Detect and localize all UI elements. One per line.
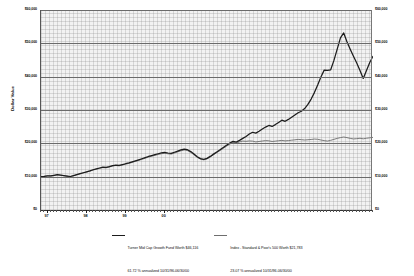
x-axis-tick-label: 97 — [40, 214, 54, 218]
x-axis-tick — [73, 210, 74, 212]
x-axis-tick — [60, 210, 61, 212]
y-axis-tick-label-left: $10,000 — [0, 175, 37, 179]
legend-fund-line1: Turner Mid Cap Growth Fund Worth $46,116 — [128, 246, 199, 250]
x-axis-tick — [349, 210, 350, 212]
x-axis-tick — [196, 210, 197, 212]
x-axis-tick — [147, 210, 148, 212]
x-axis-tick — [102, 210, 103, 212]
x-axis-tick-label: 99 — [118, 214, 132, 218]
gridline — [41, 10, 372, 11]
gridline — [41, 110, 372, 111]
x-axis-tick — [199, 210, 200, 212]
x-axis-tick — [333, 210, 334, 212]
x-axis-tick — [154, 210, 155, 212]
x-axis-tick — [245, 210, 246, 212]
right-axis-line — [371, 10, 372, 211]
x-axis-tick — [274, 210, 275, 212]
x-axis-tick — [258, 210, 259, 212]
x-axis-tick — [310, 210, 311, 212]
x-axis-tick — [82, 210, 83, 212]
legend-entry-fund: Turner Mid Cap Growth Fund Worth $46,116… — [112, 232, 199, 276]
x-axis-tick — [336, 210, 337, 212]
x-axis-tick — [255, 210, 256, 212]
x-axis-tick — [157, 210, 158, 212]
gridline — [41, 143, 372, 144]
x-axis-tick — [226, 210, 227, 212]
x-axis-tick — [105, 210, 106, 212]
gridline — [41, 43, 372, 44]
x-axis-tick — [323, 210, 324, 212]
x-axis-tick — [53, 210, 54, 212]
x-axis-tick — [268, 210, 269, 212]
x-axis-tick — [186, 210, 187, 212]
legend-swatch-fund-icon — [112, 235, 125, 236]
x-axis-tick — [252, 210, 253, 212]
x-axis-tick — [232, 210, 233, 212]
x-axis-tick — [69, 210, 70, 212]
gridline — [41, 77, 372, 78]
y-axis-tick-label-left: $20,000 — [0, 141, 37, 145]
x-axis-tick — [144, 210, 145, 212]
x-axis-tick — [92, 210, 93, 212]
x-axis-tick — [339, 210, 340, 212]
x-axis-tick — [222, 210, 223, 212]
x-axis-tick — [50, 210, 51, 212]
x-axis-tick — [304, 210, 305, 212]
y-axis-tick-label-right: $30,000 — [375, 108, 387, 112]
x-axis-tick — [170, 210, 171, 212]
x-axis-tick — [356, 210, 357, 212]
legend-swatch-index-icon — [214, 235, 227, 236]
x-axis-tick — [297, 210, 298, 212]
x-axis-tick — [284, 210, 285, 212]
legend-text-fund: Turner Mid Cap Growth Fund Worth $46,116… — [128, 232, 199, 276]
x-axis-tick — [63, 210, 64, 212]
x-axis-tick — [56, 210, 57, 212]
y-axis-tick-label-right: $0 — [375, 208, 379, 212]
x-axis-tick — [248, 210, 249, 212]
x-axis-tick — [180, 210, 181, 212]
plot-area — [40, 10, 372, 210]
gridline — [41, 177, 372, 178]
x-axis-tick — [265, 210, 266, 212]
y-axis-tick-label-right: $60,000 — [375, 8, 387, 12]
y-axis-tick-label-right: $20,000 — [375, 141, 387, 145]
x-axis-tick — [167, 210, 168, 212]
x-axis-tick — [359, 210, 360, 212]
x-axis-tick — [177, 210, 178, 212]
x-axis-tick-label: 98 — [79, 214, 93, 218]
x-axis-tick — [108, 210, 109, 212]
x-axis-tick — [372, 210, 373, 212]
x-axis-tick — [206, 210, 207, 212]
x-axis-tick — [43, 210, 44, 212]
y-axis-tick-label-left: $30,000 — [0, 108, 37, 112]
x-axis-tick — [242, 210, 243, 212]
x-axis-tick — [307, 210, 308, 212]
x-axis-tick — [261, 210, 262, 212]
x-axis-tick — [229, 210, 230, 212]
x-axis-tick — [291, 210, 292, 212]
x-axis-tick — [287, 210, 288, 212]
x-axis-tick — [95, 210, 96, 212]
x-axis-tick — [346, 210, 347, 212]
x-axis-tick — [326, 210, 327, 212]
x-axis-tick — [134, 210, 135, 212]
x-axis-tick — [131, 210, 132, 212]
x-axis-tick — [99, 210, 100, 212]
legend-text-index: Index - Standard & Poor's 500 Worth $21,… — [230, 232, 302, 276]
x-axis-tick — [66, 210, 67, 212]
y-axis-tick-label-right: $10,000 — [375, 175, 387, 179]
x-axis-tick — [317, 210, 318, 212]
x-axis-tick — [320, 210, 321, 212]
x-axis-tick — [183, 210, 184, 212]
y-axis-tick-label-left: $60,000 — [0, 8, 37, 12]
x-axis-tick — [278, 210, 279, 212]
x-axis-tick — [193, 210, 194, 212]
x-axis-tick — [239, 210, 240, 212]
y-axis-tick-label-left: $50,000 — [0, 41, 37, 45]
x-axis-tick — [112, 210, 113, 212]
x-axis-tick — [151, 210, 152, 212]
x-axis-tick — [365, 210, 366, 212]
x-axis-tick — [190, 210, 191, 212]
y-axis-tick-label-right: $40,000 — [375, 75, 387, 79]
